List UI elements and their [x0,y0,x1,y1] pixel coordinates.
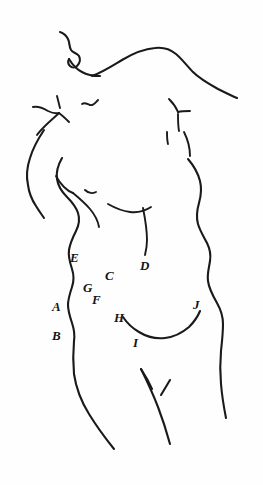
label-b: B [52,329,61,342]
torso-line-drawing [0,0,263,485]
right-torso-outline [188,159,226,418]
linea-alba-crease [143,208,147,255]
label-h: H [114,311,124,324]
right-clavicle-tick [178,111,190,112]
nipple-tick [85,190,96,193]
label-f: F [92,293,101,306]
anatomical-figure: A B C D E F G H I J [0,0,263,485]
label-j: J [193,298,200,311]
right-armpit-tick [167,132,168,144]
right-deltoid-line [178,114,179,131]
left-deltoid-mark [59,113,69,122]
left-clavicle-mark [33,107,59,114]
label-i: I [133,336,138,349]
label-a: A [52,300,61,313]
inner-thigh-line [141,369,170,444]
label-e: E [70,251,79,264]
right-clavicle-mark [169,99,178,112]
left-shoulder-crease [37,113,59,135]
label-g: G [83,281,92,294]
label-d: D [140,259,149,272]
left-clavicle-upper [57,96,60,108]
right-arm-inner-line [184,132,190,156]
left-arm-outer-contour [27,130,44,218]
sternal-notch-tick [82,100,98,105]
groin-crease-right [161,380,170,395]
shoulder-contour [92,48,237,98]
left-torso-outline [57,158,114,449]
label-c: C [105,269,114,282]
